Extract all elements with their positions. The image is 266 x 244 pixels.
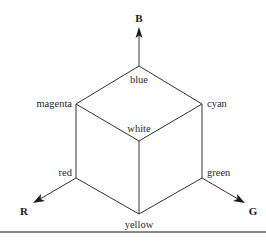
vertex-label-blue: blue: [130, 74, 148, 85]
vertex-label-cyan: cyan: [207, 98, 228, 109]
axis-b: [136, 27, 143, 66]
vertex-label-green: green: [207, 167, 231, 178]
axis-r-line: [40, 178, 76, 199]
vertex-label-red: red: [59, 167, 73, 178]
vertex-label-yellow: yellow: [125, 219, 154, 230]
cube-edges: [76, 66, 202, 214]
edge-blue-magenta: [76, 66, 139, 104]
axis-label-g: G: [249, 205, 258, 217]
edge-green-yellow: [139, 178, 202, 214]
arrow-down-left-icon: [33, 194, 45, 203]
rgb-cube-diagram: B R G blue magenta cyan white red green …: [0, 0, 266, 244]
arrow-down-right-icon: [233, 194, 245, 203]
edge-blue-cyan: [139, 66, 202, 104]
vertex-label-white: white: [127, 123, 151, 134]
edge-red-yellow: [76, 178, 139, 214]
axis-label-r: R: [20, 205, 29, 217]
axis-r: [33, 178, 76, 203]
vertex-label-magenta: magenta: [36, 98, 72, 109]
axis-label-b: B: [135, 12, 143, 24]
bottom-rule: [0, 231, 266, 233]
axis-g-line: [202, 178, 238, 199]
axis-g: [202, 178, 245, 203]
